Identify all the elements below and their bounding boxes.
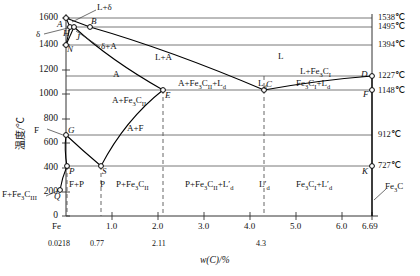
point-label-N: N xyxy=(67,45,73,54)
x-comp-tick-4.3: 4.3 xyxy=(256,240,266,248)
point-label-A: A xyxy=(57,20,63,29)
region-label-L: L xyxy=(278,52,284,61)
x-comp-tick-2.11: 2.11 xyxy=(152,240,166,248)
x-tick-4.0: 4.0 xyxy=(244,222,255,231)
y-tick-1400: 1400 xyxy=(22,40,58,50)
x-origin-label-Fe: Fe xyxy=(52,222,61,231)
region-label-A: A xyxy=(113,70,120,79)
marker-D xyxy=(370,74,375,79)
y-tick-1200: 1200 xyxy=(22,65,58,75)
phase-diagram-figure: 温度/℃ 1600 1400 1200 1000 800 600 400 200… xyxy=(0,0,420,276)
temp-label-1148: 1148℃ xyxy=(378,86,405,95)
y-tick-800: 800 xyxy=(22,114,58,124)
region-label-Fe3C: Fe3C xyxy=(385,182,403,193)
boundary-GS xyxy=(66,135,101,166)
x-comp-tick-0.77: 0.77 xyxy=(90,240,104,248)
leader-F-left xyxy=(47,129,63,135)
region-label-Fe3CI-Ld: Fe3CI+Ld xyxy=(296,79,330,90)
region-label-A-Fe3CII-Ld: A+Fe3CII+Ld xyxy=(178,79,226,90)
point-label-K: K xyxy=(362,167,368,176)
y-tick-1000: 1000 xyxy=(22,89,58,99)
point-label-Q: Q xyxy=(54,192,61,201)
point-label-J: J xyxy=(76,33,80,42)
x-tick-2.0: 2.0 xyxy=(152,222,163,231)
boundary-JE xyxy=(74,27,163,90)
point-label-H: H xyxy=(63,29,70,38)
x-tick-1.0: 1.0 xyxy=(106,222,117,231)
region-label-Fe3CI-Lpd: Fe3CI+L′d xyxy=(296,180,332,191)
region-label-Lpd: L′d xyxy=(259,180,270,191)
region-label-F-P: F+P xyxy=(69,180,84,189)
point-label-B: B xyxy=(91,17,97,26)
x-tick-3.0: 3.0 xyxy=(198,222,209,231)
region-label-L-delta: L+δ xyxy=(97,3,112,12)
region-label-delta-A: δ+A xyxy=(101,42,117,51)
marker-F xyxy=(370,88,375,93)
x-axis-title: w(C)/% xyxy=(200,256,230,266)
region-label-P-Fe3CII: P+Fe3CII xyxy=(116,180,149,191)
region-label-P: P xyxy=(100,180,105,189)
diagram-canvas xyxy=(0,0,420,276)
boundary-BC xyxy=(90,27,264,90)
y-tick-0: 0 xyxy=(22,211,58,221)
y-tick-400: 400 xyxy=(22,163,58,173)
x-tick-6.0: 6.0 xyxy=(336,222,347,231)
x-tick-6.69: 6.69 xyxy=(362,222,378,231)
point-label-E: E xyxy=(165,91,171,100)
point-label-F: F xyxy=(363,90,369,99)
point-label-D: D xyxy=(361,70,368,79)
region-label-Ld: Ld xyxy=(258,79,267,90)
x-comp-tick-0.0218: 0.0218 xyxy=(48,240,70,248)
temp-label-912: 912℃ xyxy=(378,130,401,139)
temp-label-727: 727℃ xyxy=(378,161,401,170)
point-label-P: P xyxy=(69,167,75,176)
region-label-L-Fe3CI: L+Fe3CI xyxy=(300,67,331,78)
region-label-A-F: A+F xyxy=(127,124,144,133)
temp-label-1227: 1227℃ xyxy=(378,71,405,80)
region-label-delta: δ xyxy=(36,30,40,39)
temp-label-1394: 1394℃ xyxy=(378,40,405,49)
region-label-F-Fe3CIII: F+Fe3CIII xyxy=(2,190,37,201)
marker-A xyxy=(64,16,69,21)
point-label-S: S xyxy=(102,167,107,176)
region-label-A-Fe3CII: A+Fe3CII xyxy=(112,96,146,107)
point-label-G: G xyxy=(68,126,75,135)
region-label-L-A: L+A xyxy=(155,53,172,62)
y-tick-600: 600 xyxy=(22,138,58,148)
x-tick-5.0: 5.0 xyxy=(290,222,301,231)
region-label-P-Fe3CII-Lpd: P+Fe3CII+L′d xyxy=(185,180,234,191)
marker-J xyxy=(72,25,77,30)
region-label-F: F xyxy=(34,126,39,135)
y-tick-1600: 1600 xyxy=(22,13,58,23)
marker-K xyxy=(370,164,375,169)
temp-label-1495: 1495℃ xyxy=(378,22,405,31)
